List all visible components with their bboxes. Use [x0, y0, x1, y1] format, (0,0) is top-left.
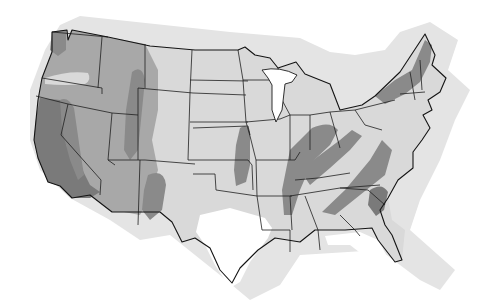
us-zone-map [0, 0, 491, 303]
map-canvas [0, 0, 491, 303]
